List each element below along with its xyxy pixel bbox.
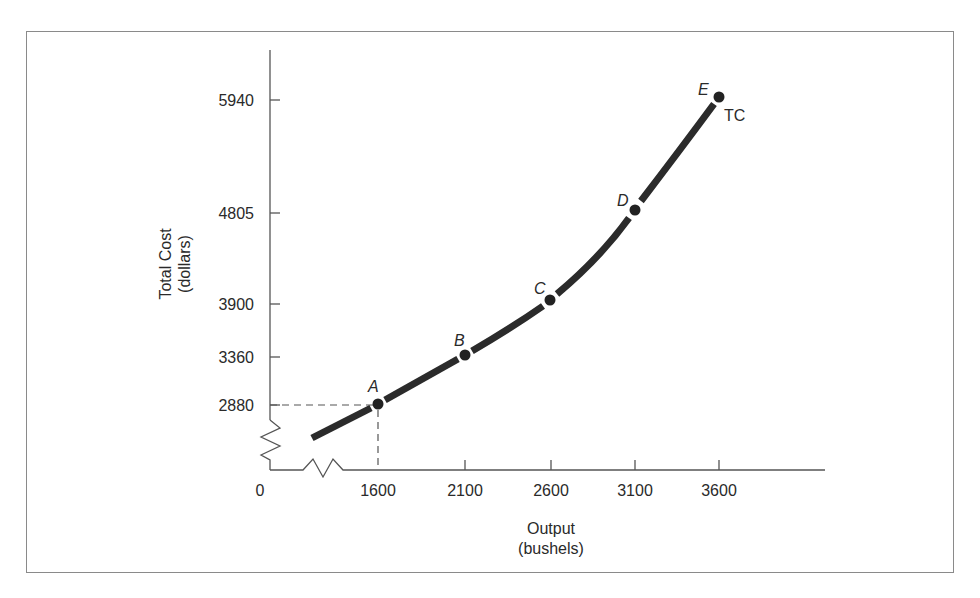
- y-tick-label: 4805: [218, 205, 254, 222]
- x-tick-label: 1600: [360, 482, 396, 499]
- x-tick-label: 3100: [617, 482, 653, 499]
- y-axis: [261, 50, 280, 470]
- y-tick-label: 5940: [218, 92, 254, 109]
- point-c-label: C: [534, 280, 546, 297]
- y-ticks: [270, 100, 280, 405]
- tc-series-label: TC: [724, 107, 745, 124]
- point-a-marker: [373, 399, 384, 410]
- x-tick-label: 2100: [447, 482, 483, 499]
- x-tick-label: 3600: [701, 482, 737, 499]
- y-axis-break-icon: [261, 420, 280, 470]
- total-cost-chart: 5940 4805 3900 3360 2880 0 1600 2100 260…: [0, 0, 980, 598]
- point-e-marker: [714, 92, 725, 103]
- point-e-label: E: [698, 81, 709, 98]
- data-points: [373, 92, 725, 410]
- point-c-marker: [545, 295, 556, 306]
- x-axis-break-icon: [270, 459, 825, 477]
- point-b-marker: [460, 350, 471, 361]
- x-tick-label: 2600: [533, 482, 569, 499]
- point-b-label: B: [454, 332, 465, 349]
- point-d-label: D: [617, 192, 629, 209]
- point-a-label: A: [367, 378, 379, 395]
- x-axis-unit: (bushels): [518, 540, 584, 557]
- y-axis-unit: (dollars): [176, 235, 193, 293]
- y-axis-title: Total Cost: [157, 228, 174, 300]
- x-axis-title: Output: [527, 520, 576, 537]
- x-axis: [270, 459, 825, 477]
- y-tick-label: 2880: [218, 397, 254, 414]
- x-ticks: [465, 460, 719, 470]
- origin-label: 0: [256, 482, 265, 499]
- y-tick-label: 3900: [218, 296, 254, 313]
- point-d-marker: [630, 205, 641, 216]
- y-axis-title-group: Total Cost (dollars): [157, 228, 193, 300]
- y-tick-label: 3360: [218, 349, 254, 366]
